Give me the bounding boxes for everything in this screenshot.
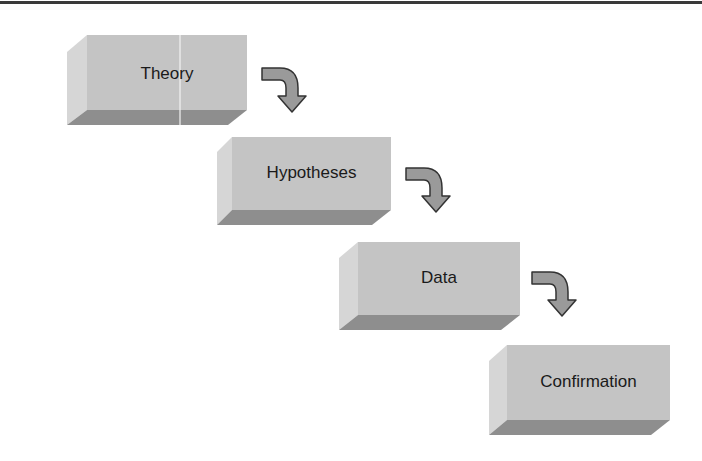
curved-arrow-icon-2 [406,168,450,212]
box-side-face [339,242,358,330]
step-label-hypotheses: Hypotheses [232,163,391,183]
step-label-theory: Theory [87,64,247,84]
box-side-face [217,137,232,225]
box-bottom-face [67,110,247,125]
box-side-face [489,345,507,435]
box-bottom-face [217,210,391,225]
box-bottom-face [339,315,520,330]
step-label-data: Data [358,268,520,288]
curved-arrow-icon-1 [262,68,306,112]
box-side-face [67,35,87,125]
box-bottom-face [489,420,670,435]
curved-arrow-icon-3 [532,272,576,316]
step-label-confirmation: Confirmation [507,372,670,392]
